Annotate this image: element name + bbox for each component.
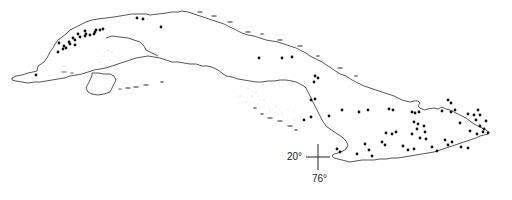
collection-point: [291, 56, 294, 59]
collection-point: [417, 123, 420, 126]
collection-point: [454, 109, 457, 112]
collection-point: [65, 47, 68, 50]
graticule-marker: 20° 76°: [287, 144, 330, 184]
collection-point: [467, 113, 470, 116]
longitude-label: 76°: [312, 173, 327, 184]
collection-point: [328, 115, 331, 118]
collection-point: [414, 112, 417, 115]
collection-point: [450, 111, 453, 114]
collection-point: [339, 151, 342, 154]
collection-point: [358, 111, 361, 114]
isla-de-la-juventud: [86, 73, 116, 95]
collection-point: [281, 57, 284, 60]
collection-point: [310, 116, 313, 119]
collection-point: [69, 43, 72, 46]
collection-points: [35, 17, 490, 158]
collection-point: [419, 137, 422, 140]
collection-point: [475, 119, 478, 122]
collection-point: [431, 146, 434, 149]
collection-point: [368, 149, 371, 152]
collection-point: [392, 109, 395, 112]
collection-point: [57, 51, 60, 54]
collection-point: [317, 77, 320, 80]
collection-point: [95, 29, 98, 32]
collection-point: [336, 148, 339, 151]
collection-point: [411, 133, 414, 136]
map-canvas: 20° 76°: [0, 0, 512, 200]
collection-point: [367, 109, 370, 112]
collection-point: [35, 74, 38, 77]
collection-point: [395, 131, 398, 134]
collection-point: [479, 125, 482, 128]
collection-point: [388, 108, 391, 111]
collection-point: [413, 121, 416, 124]
collection-point: [303, 119, 306, 122]
collection-point: [425, 138, 428, 141]
cuba-coastline: [12, 11, 489, 162]
collection-point: [160, 26, 163, 29]
collection-point: [310, 99, 313, 102]
collection-point: [258, 57, 261, 60]
collection-point: [418, 111, 421, 114]
collection-point: [384, 144, 387, 147]
collection-point: [72, 37, 75, 40]
collection-point: [476, 133, 479, 136]
collection-point: [447, 144, 450, 147]
collection-point: [314, 75, 317, 78]
collection-point: [436, 150, 439, 153]
collection-point: [356, 153, 359, 156]
collection-point: [99, 29, 102, 32]
collection-point: [314, 98, 317, 101]
collection-point: [79, 36, 82, 39]
collection-point: [63, 45, 66, 48]
collection-point: [402, 145, 405, 148]
latitude-label: 20°: [287, 151, 302, 162]
collection-point: [77, 33, 80, 36]
northern-cays: [197, 11, 358, 77]
collection-point: [58, 42, 61, 45]
collection-point: [451, 141, 454, 144]
collection-point: [473, 114, 476, 117]
southern-cays: [61, 71, 298, 131]
collection-point: [477, 109, 480, 112]
cienaga-coast: [106, 36, 158, 56]
collection-point: [447, 99, 450, 102]
collection-point: [483, 128, 486, 131]
collection-point: [385, 132, 388, 135]
collection-point: [444, 139, 447, 142]
collection-point: [62, 48, 65, 51]
collection-point: [381, 141, 384, 144]
collection-point: [313, 81, 316, 84]
collection-point: [407, 149, 410, 152]
collection-point: [469, 130, 472, 133]
collection-point: [142, 18, 145, 21]
collection-point: [485, 120, 488, 123]
collection-point: [479, 114, 482, 117]
collection-point: [423, 125, 426, 128]
collection-point: [85, 33, 88, 36]
collection-point: [93, 33, 96, 36]
collection-point: [371, 155, 374, 158]
collection-point: [391, 133, 394, 136]
collection-point: [411, 111, 414, 114]
collection-point: [74, 39, 77, 42]
collection-point: [416, 128, 419, 131]
collection-point: [89, 34, 92, 37]
collection-point: [441, 110, 444, 113]
collection-point: [460, 146, 463, 149]
collection-point: [424, 131, 427, 134]
collection-point: [341, 109, 344, 112]
collection-point: [413, 148, 416, 151]
collection-point: [459, 122, 462, 125]
collection-point: [450, 102, 453, 105]
collection-point: [487, 132, 490, 135]
collection-point: [74, 44, 77, 47]
collection-point: [364, 143, 367, 146]
collection-point: [102, 28, 105, 31]
collection-point: [84, 30, 87, 33]
collection-point: [136, 17, 139, 20]
collection-point: [482, 131, 485, 134]
collection-point: [467, 147, 470, 150]
